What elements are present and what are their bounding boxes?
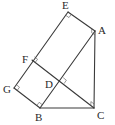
segment-EG (14, 12, 68, 88)
label-F: F (22, 53, 28, 65)
segment-GB (14, 88, 40, 108)
segment-EA (68, 12, 95, 31)
geometry-diagram: E A F G D B C (0, 0, 115, 125)
label-G: G (3, 83, 11, 95)
label-E: E (62, 0, 69, 11)
segment-AC (94, 31, 95, 108)
point-labels: E A F G D B C (3, 0, 106, 123)
label-D: D (45, 78, 53, 90)
label-A: A (98, 24, 106, 36)
label-B: B (35, 111, 42, 123)
right-angle-mark-D (63, 78, 66, 84)
label-C: C (97, 109, 104, 121)
segment-AB (40, 31, 95, 108)
segment-FC (32, 60, 94, 108)
